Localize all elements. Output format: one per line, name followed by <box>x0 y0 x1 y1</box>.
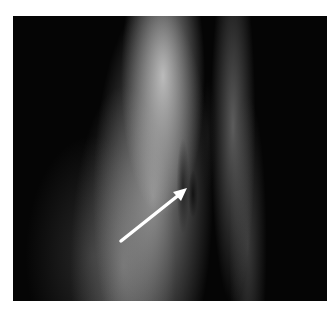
arrow-icon <box>0 0 335 312</box>
